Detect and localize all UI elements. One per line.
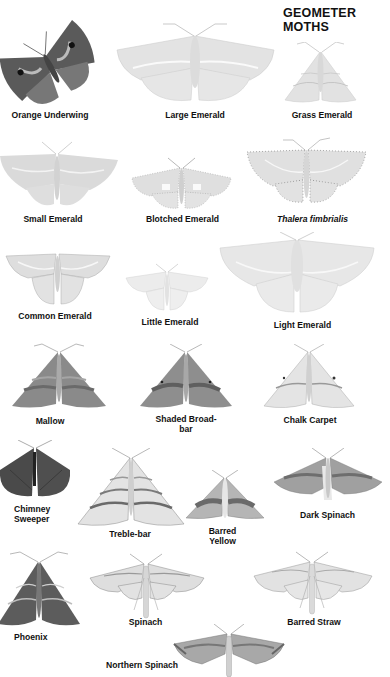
moth-label-barred-yellow: Barred Yellow [200, 527, 245, 546]
moth-illustration-blotched-emerald [130, 156, 233, 211]
moth-illustration-barred-yellow [184, 470, 266, 522]
moth-illustration-common-emerald [4, 248, 112, 306]
moth-label-little-emerald: Little Emerald [130, 318, 210, 328]
moth-illustration-mallow [10, 342, 108, 412]
moth-illustration-northern-spinach [172, 624, 286, 677]
moth-label-chalk-carpet: Chalk Carpet [270, 416, 350, 426]
moth-label-small-emerald: Small Emerald [13, 215, 93, 225]
moth-label-chimney-sweeper: Chimney Sweeper [14, 505, 58, 524]
moth-label-light-emerald: Light Emerald [260, 321, 345, 331]
moth-illustration-grass-emerald [283, 42, 358, 106]
moth-label-northern-spinach: Northern Spinach [106, 661, 174, 671]
moth-label-orange-underwing: Orange Underwing [10, 111, 90, 121]
moth-label-mallow: Mallow [20, 417, 80, 427]
moth-label-spinach: Spinach [118, 618, 173, 628]
moth-illustration-orange-underwing [0, 14, 98, 108]
moth-label-large-emerald: Large Emerald [155, 111, 235, 121]
moth-illustration-light-emerald [218, 232, 376, 314]
moth-illustration-spinach [88, 552, 206, 620]
moth-illustration-dark-spinach [272, 448, 384, 502]
moth-label-blotched-emerald: Blotched Emerald [140, 215, 225, 225]
moth-illustration-chalk-carpet [262, 344, 356, 412]
moth-label-shaded-broad-bar: Shaded Broad- bar [146, 415, 226, 434]
moth-label-dark-spinach: Dark Spinach [290, 511, 365, 521]
moth-label-barred-straw: Barred Straw [278, 618, 350, 628]
moth-label-common-emerald: Common Emerald [10, 312, 100, 322]
moth-illustration-barred-straw [252, 550, 374, 618]
moth-illustration-small-emerald [0, 140, 118, 208]
moth-label-grass-emerald: Grass Emerald [282, 111, 362, 121]
moth-illustration-little-emerald [124, 262, 210, 312]
moth-illustration-chimney-sweeper [0, 440, 72, 502]
moth-illustration-phoenix [0, 550, 80, 628]
moth-label-thalera-fimbrialis: Thalera fimbrialis [270, 215, 355, 225]
moth-label-phoenix: Phoenix [14, 633, 52, 643]
moth-label-treble-bar: Treble-bar [95, 530, 165, 540]
moth-illustration-thalera-fimbrialis [245, 136, 368, 204]
moth-illustration-large-emerald [113, 18, 278, 105]
moth-illustration-shaded-broad-bar [138, 344, 234, 412]
moth-illustration-treble-bar [76, 448, 186, 530]
page-title: GEOMETER MOTHS [283, 6, 390, 34]
